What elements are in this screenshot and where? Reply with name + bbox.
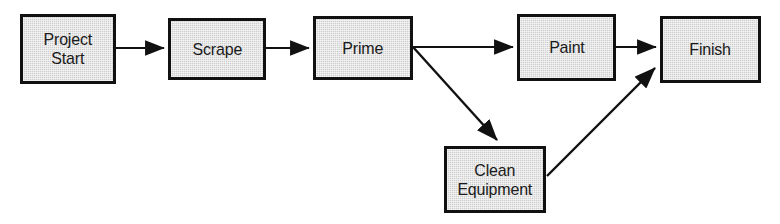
node-label: Finish (690, 40, 732, 59)
node-paint[interactable]: Paint (517, 14, 616, 81)
edge-prime-to-clean-equipment (413, 47, 497, 140)
node-label: Scrape (192, 40, 242, 59)
node-scrape[interactable]: Scrape (168, 18, 266, 80)
node-project-start[interactable]: Project Start (20, 14, 116, 84)
node-prime[interactable]: Prime (313, 16, 413, 80)
node-label: Clean Equipment (458, 161, 533, 199)
node-label: Prime (343, 39, 384, 58)
node-label: Paint (549, 38, 584, 57)
flowchart-canvas: Project Start Scrape Prime Paint Finish … (0, 0, 780, 224)
node-label: Project Start (44, 30, 92, 68)
node-finish[interactable]: Finish (660, 16, 761, 83)
node-clean-equipment[interactable]: Clean Equipment (444, 146, 546, 213)
edge-clean-equipment-to-finish (547, 68, 655, 176)
